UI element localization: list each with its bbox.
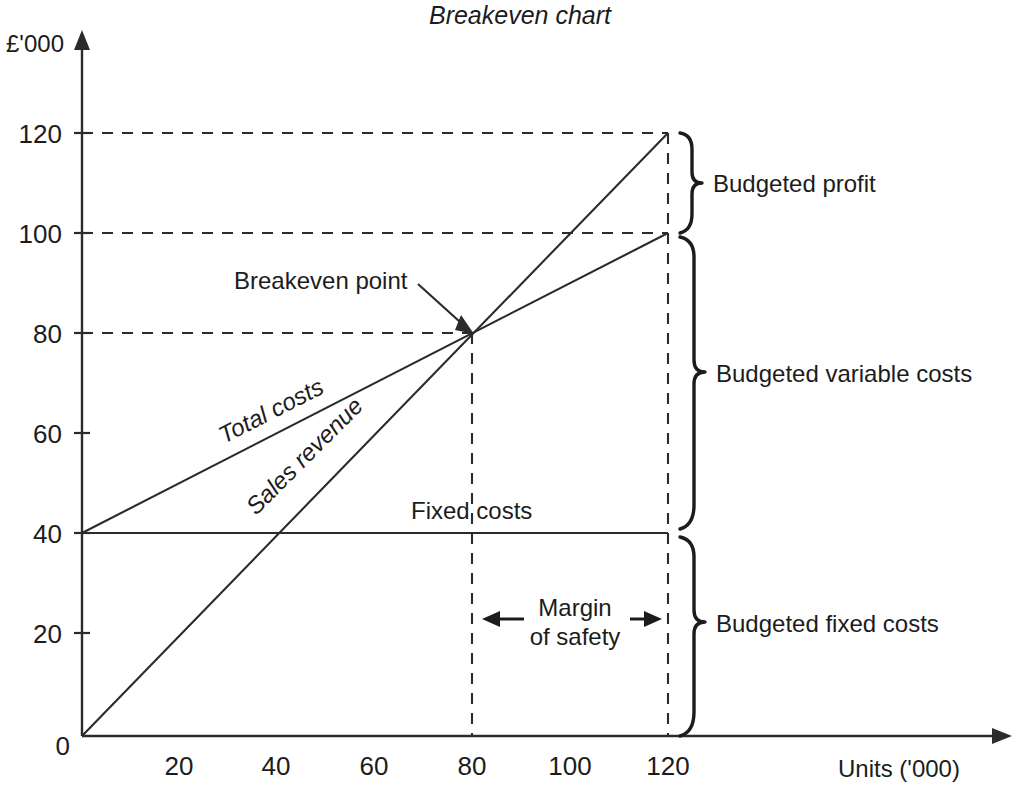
budgeted-variable-costs-brace-icon bbox=[680, 237, 705, 529]
breakeven-point-label: Breakeven point bbox=[234, 267, 408, 294]
budgeted-variable-costs-annotation: Budgeted variable costs bbox=[680, 237, 972, 529]
y-tick-label-120: 120 bbox=[19, 119, 62, 149]
margin-of-safety-right-arrow-icon bbox=[644, 611, 662, 627]
x-axis: Units ('000) bbox=[82, 728, 1012, 782]
margin-of-safety-label-line1: Margin bbox=[538, 594, 611, 621]
margin-of-safety-annotation: Margin of safety bbox=[482, 594, 662, 650]
x-tick-label-20: 20 bbox=[165, 751, 194, 781]
y-origin-label: 0 bbox=[56, 731, 70, 761]
chart-title: Breakeven chart bbox=[429, 1, 612, 29]
x-tick-label-60: 60 bbox=[360, 751, 389, 781]
series-label-fixed-costs: Fixed costs bbox=[411, 497, 532, 524]
budgeted-profit-annotation: Budgeted profit bbox=[680, 133, 876, 233]
budgeted-fixed-costs-label: Budgeted fixed costs bbox=[716, 610, 939, 637]
x-tick-label-100: 100 bbox=[548, 751, 591, 781]
x-tick-label-120: 120 bbox=[646, 751, 689, 781]
budgeted-variable-costs-label: Budgeted variable costs bbox=[716, 360, 972, 387]
margin-of-safety-left-arrow-icon bbox=[482, 611, 500, 627]
breakeven-point-arrow-icon bbox=[455, 315, 474, 334]
breakeven-point-annotation: Breakeven point bbox=[234, 267, 474, 334]
x-axis-arrow-icon bbox=[992, 728, 1012, 744]
budgeted-fixed-costs-brace-icon bbox=[680, 537, 705, 736]
y-tick-label-60: 60 bbox=[33, 419, 62, 449]
x-tick-label-40: 40 bbox=[262, 751, 291, 781]
x-tick-label-80: 80 bbox=[458, 751, 487, 781]
y-tick-label-40: 40 bbox=[33, 519, 62, 549]
budgeted-fixed-costs-annotation: Budgeted fixed costs bbox=[680, 537, 939, 736]
budgeted-profit-label: Budgeted profit bbox=[713, 170, 876, 197]
x-tick-group: 20 40 60 80 100 120 bbox=[165, 751, 690, 781]
margin-of-safety-label-line2: of safety bbox=[530, 623, 621, 650]
y-tick-group: 120 100 80 60 40 20 0 bbox=[19, 119, 90, 761]
x-axis-title: Units ('000) bbox=[838, 755, 960, 782]
y-tick-label-100: 100 bbox=[19, 219, 62, 249]
chart-canvas: Breakeven chart £'000 Units ('000) 120 1… bbox=[0, 0, 1028, 799]
y-axis-arrow-icon bbox=[74, 30, 90, 50]
y-tick-label-20: 20 bbox=[33, 619, 62, 649]
y-axis-title: £'000 bbox=[6, 30, 64, 57]
budgeted-profit-brace-icon bbox=[680, 133, 702, 233]
y-tick-label-80: 80 bbox=[33, 319, 62, 349]
breakeven-chart-figure: Breakeven chart £'000 Units ('000) 120 1… bbox=[0, 0, 1028, 799]
